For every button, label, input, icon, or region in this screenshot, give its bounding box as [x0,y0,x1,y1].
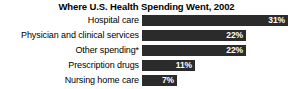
bar-value-label: 31% [268,15,285,26]
bar-value-label: 11% [176,60,192,71]
category-label: Hospital care [0,15,139,26]
category-label: Physician and clinical services [0,30,139,41]
category-label: Nursing home care [0,75,139,86]
bar-value-label: 22% [226,30,243,41]
bar-track: 22% [142,30,293,41]
bar: 22% [142,45,246,56]
bar-row: Physician and clinical services 22% [0,30,293,41]
bar-track: 11% [142,60,293,71]
chart-rows: Hospital care 31% Physician and clinical… [0,15,293,89]
bar-track: 7% [142,75,293,86]
category-label: Other spending* [0,45,139,56]
bar: 7% [142,75,177,86]
bar-value-label: 7% [162,75,174,86]
bar: 31% [142,15,288,26]
bar-track: 31% [142,15,293,26]
health-spending-bar-chart: Where U.S. Health Spending Went, 2002 Ho… [0,0,293,89]
bar-value-label: 22% [226,45,243,56]
category-label: Prescription drugs [0,60,139,71]
bar-row: Prescription drugs 11% [0,60,293,71]
bar-track: 22% [142,45,293,56]
bar: 11% [142,60,195,71]
chart-title: Where U.S. Health Spending Went, 2002 [0,1,293,12]
bar-row: Other spending* 22% [0,45,293,56]
bar-row: Nursing home care 7% [0,75,293,86]
bar-row: Hospital care 31% [0,15,293,26]
bar: 22% [142,30,246,41]
